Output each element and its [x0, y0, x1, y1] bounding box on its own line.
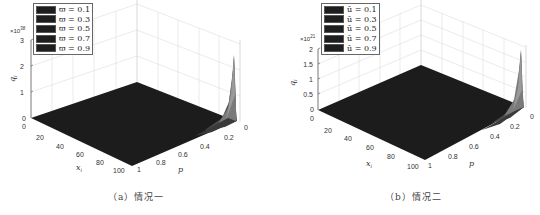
z-tick-label: 0.5 [303, 91, 313, 98]
legend-swatch [324, 6, 344, 14]
x-tick-label: 0 [310, 115, 314, 122]
legend-swatch [36, 15, 56, 23]
legend-a: ϖ = 0.1 ϖ = 0.3 ϖ = 0.5 ϖ = 0.7 ϖ = 0.9 [33, 3, 93, 55]
legend-swatch [324, 44, 344, 52]
x-tick-label: 20 [324, 127, 332, 134]
legend-item: ϖ = 0.3 [36, 15, 90, 25]
z-axis-label: qi [288, 79, 298, 86]
legend-item: ū = 0.9 [324, 43, 377, 53]
legend-item: ϖ = 0.9 [36, 43, 90, 53]
z-axis-label: qi [8, 75, 18, 82]
z-tick-label: 0 [22, 115, 26, 122]
legend-swatch [324, 15, 344, 23]
x-axis-label: xi [76, 163, 83, 173]
x-axis-label: xi [366, 159, 373, 169]
legend-b: ū = 0.1 ū = 0.3 ū = 0.5 ū = 0.7 ū = 0.9 [321, 3, 380, 55]
legend-item: ū = 0.5 [324, 24, 377, 34]
p-tick-label: 0 [530, 113, 534, 120]
legend-item: ū = 0.3 [324, 15, 377, 25]
x-tick-label: 20 [36, 134, 44, 141]
legend-item: ū = 0.1 [324, 5, 377, 15]
x-tick-label: 80 [387, 153, 395, 160]
p-tick-label: 0.4 [200, 143, 210, 150]
p-axis-label: p [469, 159, 474, 168]
p-tick-label: 0.4 [490, 133, 500, 140]
x-tick-label: 40 [344, 135, 352, 142]
legend-item: ϖ = 0.1 [36, 5, 90, 15]
z-axis-a: 3 2 1 0 ×1038 qi [8, 26, 33, 122]
p-tick-label: 0.6 [178, 151, 188, 158]
legend-item: ū = 0.7 [324, 34, 377, 44]
z-tick-label: 1 [20, 89, 24, 96]
legend-item: ϖ = 0.5 [36, 24, 90, 34]
surface-plot-b: 2 1.5 1 0.5 0 ×1021 qi 0 20 40 60 80 100… [270, 0, 540, 215]
p-tick-label: 0 [244, 124, 248, 131]
z-tick-label: 2 [20, 63, 24, 70]
surface-floor-a [31, 82, 236, 166]
z-tick-label: 3 [20, 37, 24, 44]
legend-swatch [324, 35, 344, 43]
z-tick-label: 0 [310, 106, 314, 113]
x-tick-label: 60 [366, 144, 374, 151]
legend-swatch [36, 25, 56, 33]
figure-panel-a: 3 2 1 0 ×1038 qi 0 20 40 60 80 100 xi 0 … [0, 0, 270, 215]
p-tick-label: 1 [428, 162, 432, 169]
legend-swatch [36, 44, 56, 52]
p-tick-label: 0.8 [448, 153, 458, 160]
z-tick-label: 2 [309, 46, 313, 53]
x-tick-label: 80 [96, 159, 104, 166]
x-tick-label: 100 [113, 167, 125, 174]
z-tick-label: 1 [309, 76, 313, 83]
x-tick-label: 0 [22, 123, 26, 130]
figure-panel-b: 2 1.5 1 0.5 0 ×1021 qi 0 20 40 60 80 100… [270, 0, 540, 215]
p-tick-label: 1 [137, 166, 141, 173]
legend-swatch [36, 35, 56, 43]
x-tick-label: 40 [56, 143, 64, 150]
z-multiplier: ×1038 [10, 26, 26, 34]
caption-a: （a）情况一 [108, 190, 164, 203]
z-multiplier: ×1021 [300, 34, 316, 42]
p-axis-label: p [178, 165, 183, 174]
x-tick-label: 100 [407, 163, 419, 170]
p-tick-label: 0.6 [469, 143, 479, 150]
z-axis-b: 2 1.5 1 0.5 0 ×1021 qi [288, 34, 320, 113]
legend-item: ϖ = 0.7 [36, 34, 90, 44]
z-tick-label: 1.5 [303, 61, 313, 68]
x-tick-label: 60 [76, 151, 84, 158]
legend-swatch [36, 6, 56, 14]
p-tick-label: 0.2 [510, 123, 520, 130]
caption-b: （b）情况二 [385, 190, 442, 203]
legend-swatch [324, 25, 344, 33]
p-tick-label: 0.2 [224, 134, 234, 141]
p-tick-label: 0.8 [156, 159, 166, 166]
